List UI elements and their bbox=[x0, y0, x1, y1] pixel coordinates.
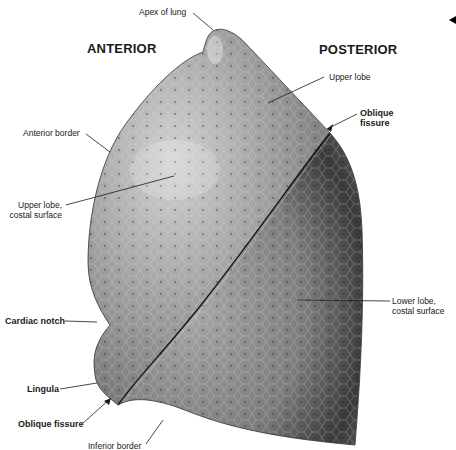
label-oblique-fissure-bottom: Oblique fissure bbox=[18, 419, 84, 429]
anterior-heading: ANTERIOR bbox=[87, 44, 157, 54]
label-lingula: Lingula bbox=[27, 384, 59, 394]
posterior-heading: POSTERIOR bbox=[319, 45, 397, 55]
label-upper-lobe-costal-surface: Upper lobe, costal surface bbox=[8, 200, 62, 220]
label-apex-of-lung: Apex of lung bbox=[139, 7, 186, 17]
label-lower-lobe-costal-surface: Lower lobe, costal surface bbox=[392, 296, 444, 316]
label-inferior-border: Inferior border bbox=[88, 441, 141, 450]
page-marker-arrow-icon bbox=[449, 16, 456, 24]
label-upper-lobe: Upper lobe bbox=[329, 72, 371, 82]
label-anterior-border: Anterior border bbox=[23, 128, 80, 138]
label-cardiac-notch: Cardiac notch bbox=[5, 316, 65, 326]
label-oblique-fissure-top: Oblique fissure bbox=[360, 108, 394, 128]
